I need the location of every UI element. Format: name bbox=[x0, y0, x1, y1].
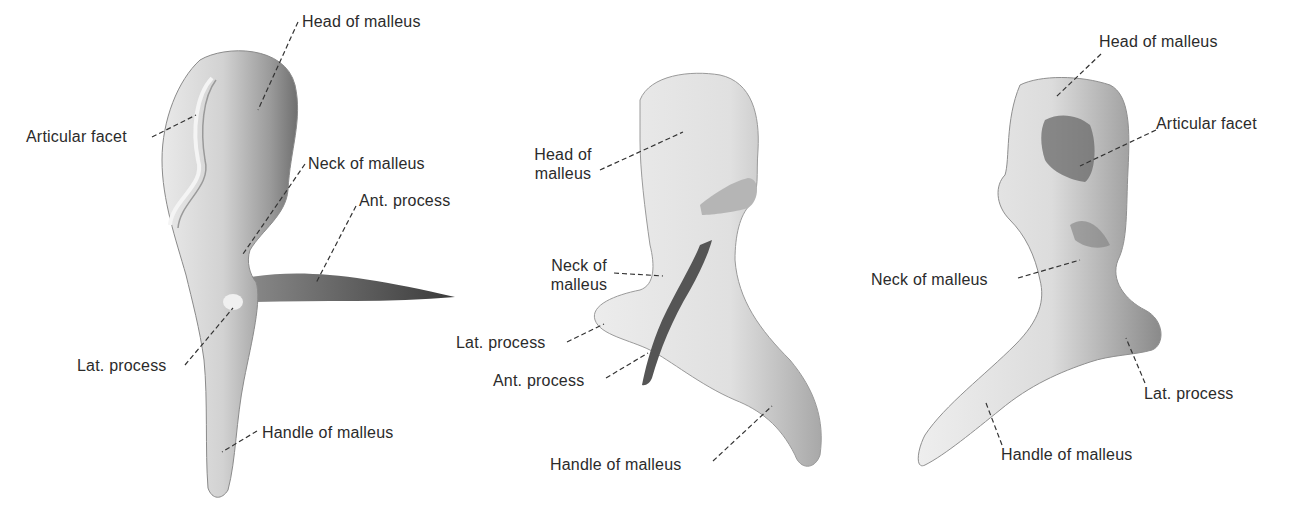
label-ant-process-view2: Ant. process bbox=[493, 371, 584, 390]
label-articular-facet-view3: Articular facet bbox=[1156, 114, 1257, 133]
label-neck-of-malleus-view2: Neck of malleus bbox=[545, 256, 613, 294]
label-articular-facet-view1: Articular facet bbox=[26, 127, 127, 146]
label-neck-of-malleus-view1: Neck of malleus bbox=[308, 154, 425, 173]
label-lat-process-view2: Lat. process bbox=[456, 333, 546, 352]
label-head-of-malleus-view3: Head of malleus bbox=[1099, 32, 1218, 51]
malleus-figure: Head of malleus Articular facet Neck of … bbox=[0, 0, 1302, 524]
label-handle-of-malleus-view3: Handle of malleus bbox=[1001, 445, 1132, 464]
label-lat-process-view1: Lat. process bbox=[77, 356, 167, 375]
label-head-of-malleus-view1: Head of malleus bbox=[302, 12, 421, 31]
malleus-view-2 bbox=[594, 73, 821, 466]
label-neck-of-malleus-view3: Neck of malleus bbox=[871, 270, 988, 289]
label-ant-process-view1: Ant. process bbox=[359, 191, 450, 210]
label-handle-of-malleus-view2: Handle of malleus bbox=[550, 455, 681, 474]
label-head-of-malleus-view2: Head of malleus bbox=[528, 145, 598, 183]
label-handle-of-malleus-view1: Handle of malleus bbox=[262, 423, 393, 442]
label-lat-process-view3: Lat. process bbox=[1144, 384, 1234, 403]
